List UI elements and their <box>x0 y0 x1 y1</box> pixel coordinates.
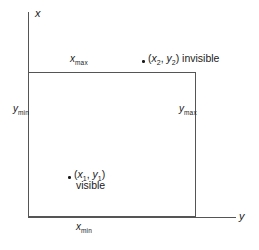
x-max-subscript: max <box>75 59 88 66</box>
y-min-label: ymin <box>13 104 29 115</box>
visible-point-dot <box>68 176 71 179</box>
clipping-window-rectangle <box>28 72 196 217</box>
x-axis-label: x <box>35 8 41 20</box>
invisible-status-text: invisible <box>182 52 219 64</box>
clipping-window-diagram: x y xmax xmin ymin ymax (x2, y2) invisib… <box>0 0 259 250</box>
y-max-subscript: max <box>184 109 197 116</box>
y-axis-line <box>28 217 236 218</box>
invisible-x-variable: x2 <box>152 52 161 64</box>
x-max-label: xmax <box>70 54 88 65</box>
invisible-y-variable: y2 <box>167 52 176 64</box>
invisible-close-paren: ) <box>176 52 180 64</box>
x-min-label: xmin <box>76 222 92 233</box>
invisible-point-label: (x2, y2) invisible <box>148 53 219 64</box>
y-max-label: ymax <box>179 104 197 115</box>
visible-status-text: visible <box>76 180 105 191</box>
invisible-point-dot <box>142 60 145 63</box>
y-axis-label: y <box>239 211 245 223</box>
y-min-subscript: min <box>18 109 29 116</box>
x-min-subscript: min <box>81 227 92 234</box>
